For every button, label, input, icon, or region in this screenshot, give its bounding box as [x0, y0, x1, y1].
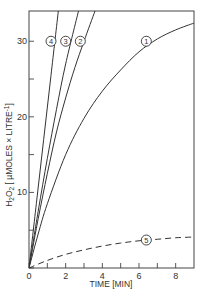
- curve-2: [29, 11, 95, 268]
- curve-label-1: 1: [141, 36, 151, 46]
- y-tick-label: 10: [17, 187, 27, 197]
- svg-text:5: 5: [144, 236, 148, 245]
- y-axis-title: H2O2 [ µMOLES × LITRE-1]: [3, 103, 15, 207]
- curve-label-5: 5: [141, 235, 151, 245]
- svg-text:4: 4: [49, 37, 53, 46]
- x-tick-label: 8: [173, 271, 178, 281]
- svg-text:3: 3: [64, 37, 68, 46]
- svg-text:2: 2: [78, 37, 82, 46]
- curve-labels: 12345: [46, 36, 151, 245]
- x-tick-label: 2: [63, 271, 68, 281]
- y-tick-label: 30: [17, 36, 27, 46]
- x-tick-label: 6: [136, 271, 141, 281]
- x-axis-title: TIME [MIN]: [90, 279, 133, 289]
- curve-label-2: 2: [75, 36, 85, 46]
- chart: 02468102030 12345 TIME [MIN] H2O2 [ µMOL…: [0, 0, 205, 299]
- curve-4: [29, 11, 58, 268]
- curve-label-3: 3: [61, 36, 71, 46]
- x-tick-label: 0: [26, 271, 31, 281]
- curve-label-4: 4: [46, 36, 56, 46]
- curve-5: [29, 237, 194, 268]
- svg-text:1: 1: [144, 37, 148, 46]
- data-curves: [29, 11, 194, 268]
- y-tick-label: 20: [17, 112, 27, 122]
